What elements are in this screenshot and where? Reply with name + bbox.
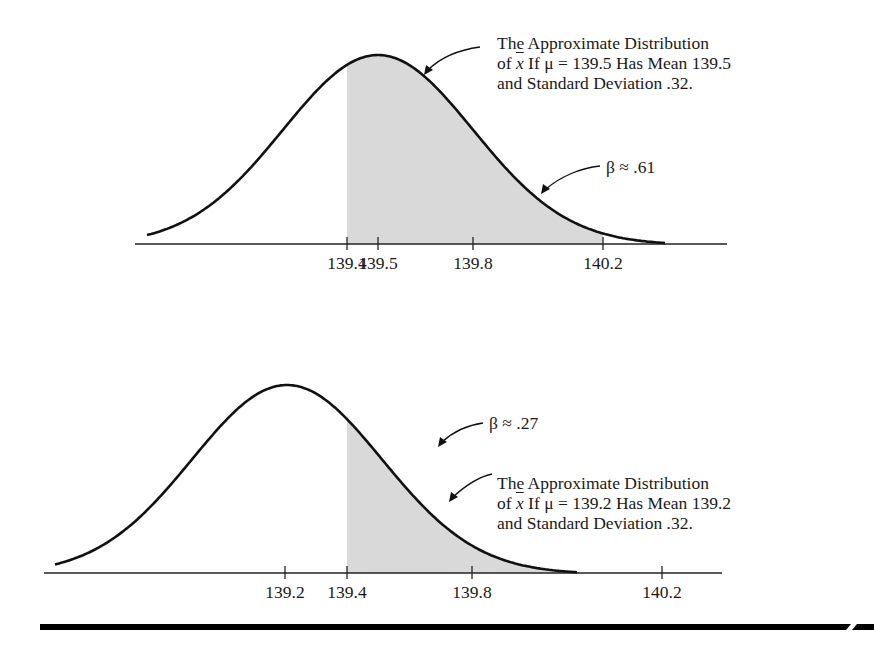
top-annotation: The Approximate Distribution of x If μ =… <box>497 33 731 93</box>
bottom-beta-label: β ≈ .27 <box>489 413 538 433</box>
bottom-annotation-of: of <box>497 493 516 513</box>
top-beta-label: β ≈ .61 <box>606 157 655 177</box>
x-bar-symbol: x <box>516 53 524 73</box>
bottom-page-rule-end-dash <box>852 624 874 630</box>
bottom-tick-label: 139.4 <box>327 582 366 603</box>
bottom-beta-arrow-line-icon <box>442 423 483 442</box>
figure-canvas <box>0 0 874 650</box>
bottom-tick-label: 140.2 <box>642 582 681 603</box>
bottom-tick-label: 139.2 <box>265 582 304 603</box>
top-annotation-arrow-icon <box>428 47 480 70</box>
bottom-annotation-arrow-icon <box>453 474 492 497</box>
bottom-tick-label: 139.8 <box>452 582 491 603</box>
bottom-annotation-line1: The Approximate Distribution <box>497 473 731 493</box>
bottom-annotation-line3: and Standard Deviation .32. <box>497 513 731 533</box>
bottom-annotation: The Approximate Distribution of x If μ =… <box>497 473 731 533</box>
bottom-annotation-line2: of x If μ = 139.2 Has Mean 139.2 <box>497 493 731 513</box>
bottom-annotation-mu: If μ = 139.2 Has Mean 139.2 <box>524 493 731 513</box>
top-tick-label: 140.2 <box>583 253 622 274</box>
top-beta-arrow-icon <box>546 166 600 189</box>
top-annotation-line2: of x If μ = 139.5 Has Mean 139.5 <box>497 53 731 73</box>
top-tick-label: 139.5 <box>358 253 397 274</box>
top-tick-label: 139.8 <box>453 253 492 274</box>
x-bar-symbol: x <box>516 493 524 513</box>
top-annotation-line1: The Approximate Distribution <box>497 33 731 53</box>
top-annotation-mu: If μ = 139.5 Has Mean 139.5 <box>524 53 731 73</box>
top-annotation-line3: and Standard Deviation .32. <box>497 73 731 93</box>
top-beta-arrowhead-icon <box>541 184 550 194</box>
top-annotation-of: of <box>497 53 516 73</box>
bottom-page-rule <box>40 624 851 630</box>
